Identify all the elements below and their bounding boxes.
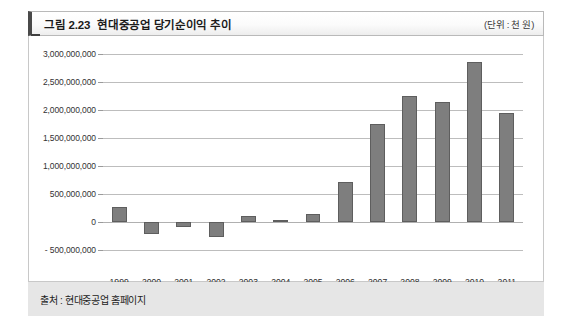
bar-2002 [209, 222, 224, 237]
bar-2007 [370, 124, 385, 222]
y-axis-tick-mark [98, 250, 103, 251]
gridline [103, 194, 523, 195]
figure-header-title-group: 그림 2.23 현대중공업 당기순이익 추이 [44, 16, 231, 32]
figure-number: 그림 2.23 [44, 16, 90, 32]
gridline [103, 82, 523, 83]
bar-2001 [176, 222, 191, 227]
gridline [103, 250, 523, 251]
bar-2011 [499, 113, 514, 222]
y-axis-tick-label: 2,000,000,000 [43, 105, 96, 115]
gridline [103, 138, 523, 139]
gridline [103, 166, 523, 167]
bar-1999 [112, 207, 127, 222]
figure-container: 그림 2.23 현대중공업 당기순이익 추이 (단위 : 천 원) 3,000,… [28, 11, 544, 319]
bar-2000 [144, 222, 159, 234]
y-axis-tick-label: 500,000,000 [50, 189, 96, 199]
figure-footer: 출처 : 현대중공업 홈페이지 [28, 282, 544, 316]
plot-wrapper: 3,000,000,0002,500,000,0002,000,000,0001… [29, 36, 543, 281]
y-axis-tick-label: 1,000,000,000 [43, 161, 96, 171]
bar-2004 [273, 220, 288, 222]
bar-2005 [306, 214, 321, 222]
figure-unit-label: (단위 : 천 원) [484, 17, 534, 31]
y-axis-tick-mark [98, 110, 103, 111]
gridline [103, 110, 523, 111]
y-axis-tick-label: 2,500,000,000 [43, 77, 96, 87]
source-text: 출처 : 현대중공업 홈페이지 [40, 292, 146, 307]
bar-2008 [402, 96, 417, 222]
y-axis-tick-mark [98, 138, 103, 139]
y-axis-tick-mark [98, 222, 103, 223]
gridline [103, 222, 523, 223]
bar-2003 [241, 216, 256, 222]
gridline [103, 54, 523, 55]
bar-2006 [338, 182, 353, 222]
chart-body: 3,000,000,0002,500,000,0002,000,000,0001… [28, 36, 544, 282]
y-axis-tick-label: - 500,000,000 [45, 245, 96, 255]
y-axis-tick-mark [98, 194, 103, 195]
figure-header: 그림 2.23 현대중공업 당기순이익 추이 (단위 : 천 원) [28, 11, 544, 36]
y-axis-tick-mark [98, 166, 103, 167]
figure-title: 현대중공업 당기순이익 추이 [97, 16, 231, 32]
y-axis-tick-mark [98, 54, 103, 55]
y-axis-tick-label: 1,500,000,000 [43, 133, 96, 143]
plot-area: 3,000,000,0002,500,000,0002,000,000,0001… [103, 54, 523, 250]
bar-2009 [435, 102, 450, 222]
bar-2010 [467, 62, 482, 222]
y-axis-tick-label: 3,000,000,000 [43, 49, 96, 59]
y-axis-tick-label: 0 [91, 217, 96, 227]
y-axis-tick-mark [98, 82, 103, 83]
